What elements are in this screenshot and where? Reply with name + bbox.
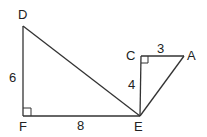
- right-angle-mark-F: [23, 108, 31, 116]
- segment-CE: [140, 56, 141, 116]
- point-label-E: E: [134, 119, 143, 134]
- length-label-DF: 6: [9, 70, 16, 85]
- segment-AE: [140, 56, 184, 116]
- point-label-D: D: [18, 7, 27, 22]
- length-label-CA: 3: [157, 41, 164, 56]
- point-label-A: A: [187, 48, 196, 63]
- point-label-F: F: [19, 119, 27, 134]
- right-angle-mark-C: [141, 56, 148, 63]
- point-label-C: C: [126, 48, 135, 63]
- geometry-diagram: D F E C A 6 8 4 3: [0, 0, 207, 137]
- segment-DE: [23, 26, 140, 116]
- length-label-FE: 8: [77, 118, 84, 133]
- length-label-CE: 4: [128, 77, 135, 92]
